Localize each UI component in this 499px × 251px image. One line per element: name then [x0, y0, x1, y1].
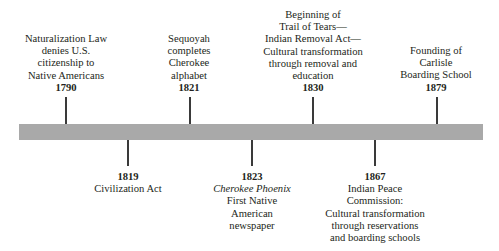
event-text: and boarding schools	[325, 232, 425, 244]
event-year: 1821	[168, 82, 211, 94]
event-text: Civilization Act	[94, 183, 161, 195]
event-text: citizenship to	[25, 57, 107, 69]
event-text: denies U.S.	[25, 45, 107, 57]
event-text: completes	[168, 45, 211, 57]
event-text: American	[213, 208, 291, 220]
tick-1790	[65, 97, 67, 124]
event-1790: Naturalization Law denies U.S. citizensh…	[25, 33, 107, 94]
tick-1819	[127, 140, 129, 166]
event-text: newspaper	[213, 220, 291, 232]
event-text: Indian Removal Act—	[263, 33, 363, 45]
tick-1867	[374, 140, 376, 166]
event-year: 1879	[400, 82, 472, 94]
event-text: Commission:	[325, 195, 425, 207]
event-text: through removal and	[263, 58, 363, 70]
event-year: 1819	[94, 171, 161, 183]
event-text: First Native	[213, 195, 291, 207]
event-text: Native Americans	[25, 70, 107, 82]
event-1819: 1819 Civilization Act	[94, 171, 161, 195]
event-text: Sequoyah	[168, 33, 211, 45]
tick-1879	[436, 97, 438, 124]
event-year: 1867	[325, 171, 425, 183]
event-year: 1790	[25, 82, 107, 94]
tick-1830	[312, 97, 314, 124]
event-text: Founding of	[400, 45, 472, 57]
event-text: Trail of Tears—	[263, 21, 363, 33]
event-text: alphabet	[168, 70, 211, 82]
event-text: Cultural transformation	[325, 208, 425, 220]
event-text: Cultural transformation	[263, 46, 363, 58]
event-text: education	[263, 70, 363, 82]
tick-1823	[251, 140, 253, 166]
event-year: 1823	[213, 171, 291, 183]
event-1879: Founding of Carlisle Boarding School 187…	[400, 45, 472, 94]
event-1821: Sequoyah completes Cherokee alphabet 182…	[168, 33, 211, 94]
event-1867: 1867 Indian Peace Commission: Cultural t…	[325, 171, 425, 244]
event-text: Carlisle	[400, 57, 472, 69]
event-text: Indian Peace	[325, 183, 425, 195]
event-1830: Beginning of Trail of Tears— Indian Remo…	[263, 9, 363, 94]
event-text: Boarding School	[400, 69, 472, 81]
event-1823: 1823 Cherokee Phoenix First Native Ameri…	[213, 171, 291, 232]
event-text: Beginning of	[263, 9, 363, 21]
event-text: Naturalization Law	[25, 33, 107, 45]
event-year: 1830	[263, 82, 363, 94]
event-text: Cherokee	[168, 57, 211, 69]
timeline-bar	[19, 124, 483, 140]
event-title-italic: Cherokee Phoenix	[213, 183, 291, 195]
event-text: through reservations	[325, 220, 425, 232]
tick-1821	[189, 97, 191, 124]
